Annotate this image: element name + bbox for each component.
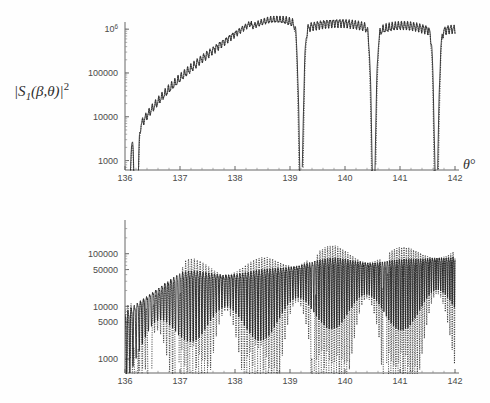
y-tick-label: 10000 <box>93 302 118 312</box>
x-tick-label: 140 <box>337 376 352 386</box>
chart-panel-s1: |S1(β,θ)|2 θ° 10001000010000010613613713… <box>0 0 490 200</box>
x-tick-label: 142 <box>447 376 462 386</box>
x-tick-label: 138 <box>227 376 242 386</box>
x-axis-label-s1: θ° <box>463 157 476 173</box>
x-tick-label: 140 <box>337 173 352 183</box>
series-dotted-top <box>131 16 455 171</box>
x-tick-label: 138 <box>227 173 242 183</box>
y-tick-label: 100000 <box>88 249 118 259</box>
y-tick-label: 1000 <box>98 354 118 364</box>
chart-svg-s1: 100010000100000106136137138139140141142 <box>0 0 490 200</box>
x-tick-label: 142 <box>447 173 462 183</box>
x-tick-label: 136 <box>117 376 132 386</box>
x-tick-label: 139 <box>282 376 297 386</box>
x-tick-label: 139 <box>282 173 297 183</box>
y-tick-label: 50000 <box>93 265 118 275</box>
chart-panel-s2: |S2(β,θ)|2 θ° 10005000100005000010000013… <box>0 200 490 403</box>
chart-svg-s2: 1000500010000500001000001361371381391401… <box>0 200 490 403</box>
x-tick-label: 136 <box>117 173 132 183</box>
y-tick-label: 10000 <box>93 112 118 122</box>
figure-page: |S1(β,θ)|2 θ° 10001000010000010613613713… <box>0 0 490 403</box>
y-axis-label-s1-superscript: 2 <box>64 80 69 92</box>
y-axis-label-s1: |S1(β,θ)|2 <box>14 80 69 102</box>
y-tick-label: 106 <box>104 23 118 34</box>
y-tick-label: 1000 <box>98 156 118 166</box>
y-tick-label: 5000 <box>98 317 118 327</box>
x-tick-label: 141 <box>392 376 407 386</box>
x-tick-label: 141 <box>392 173 407 183</box>
series-solid-top <box>131 16 456 171</box>
y-tick-label: 100000 <box>88 68 118 78</box>
x-tick-label: 137 <box>172 173 187 183</box>
x-tick-label: 137 <box>172 376 187 386</box>
